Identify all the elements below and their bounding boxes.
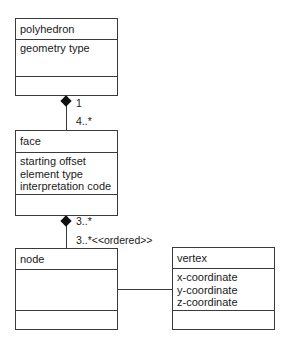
class-name-vertex: vertex [173, 248, 274, 269]
class-polyhedron: polyhedron geometry type [15, 18, 118, 96]
class-node: node [15, 248, 118, 330]
attribute: x-coordinate [177, 271, 270, 284]
attributes-polyhedron: geometry type [16, 40, 117, 77]
attributes-node [16, 270, 117, 311]
class-name-node: node [16, 249, 117, 270]
attribute: interpretation code [20, 180, 113, 193]
composition-diamond-icon [60, 95, 71, 106]
multiplicity-label: 1 [76, 97, 82, 109]
attribute: z-coordinate [177, 296, 270, 309]
attribute: y-coordinate [177, 284, 270, 297]
multiplicity-label: 3..* [76, 215, 92, 227]
operations-node [16, 311, 117, 329]
attribute: starting offset [20, 155, 113, 168]
composition-diamond-icon [60, 215, 71, 226]
class-name-face: face [16, 131, 117, 153]
attribute: element type [20, 168, 113, 181]
operations-face [16, 195, 117, 215]
class-face: face starting offset element type interp… [15, 130, 118, 216]
multiplicity-label: 3..*<<ordered>> [76, 234, 152, 246]
class-name-polyhedron: polyhedron [16, 19, 117, 40]
attributes-vertex: x-coordinate y-coordinate z-coordinate [173, 269, 274, 311]
association-line-node-vertex [118, 289, 172, 290]
operations-vertex [173, 311, 274, 329]
attribute: geometry type [20, 42, 113, 55]
operations-polyhedron [16, 77, 117, 95]
multiplicity-label: 4..* [76, 115, 92, 127]
attributes-face: starting offset element type interpretat… [16, 153, 117, 195]
class-vertex: vertex x-coordinate y-coordinate z-coord… [172, 247, 275, 330]
